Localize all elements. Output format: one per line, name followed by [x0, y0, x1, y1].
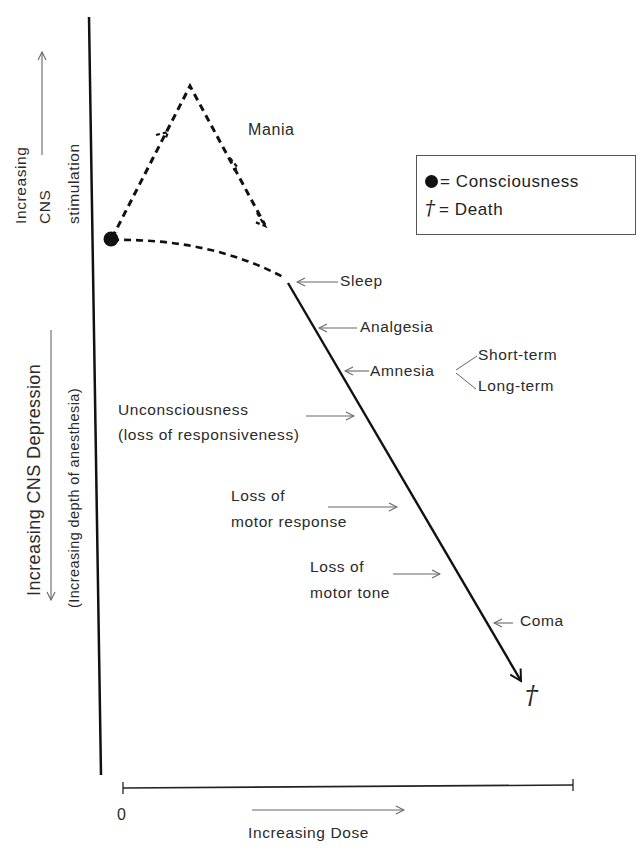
legend-death: †= Death: [425, 196, 503, 220]
y-axis-upper-label-line3: stimulation: [65, 143, 83, 224]
stage-sleep-label: Sleep: [340, 272, 383, 290]
y-axis-lower-label-sub: (Increasing depth of anesthesia): [66, 388, 82, 608]
stage-coma-label: Coma: [520, 612, 564, 630]
legend-consciousness-label: = Consciousness: [440, 172, 579, 191]
legend-death-label: = Death: [439, 200, 503, 219]
diagram-canvas: [0, 0, 644, 854]
stage-motor-tone-label-line2: motor tone: [310, 584, 390, 602]
amnesia-branch-long: [456, 373, 476, 389]
legend: = Consciousness †= Death: [416, 155, 636, 235]
x-axis-line: [123, 785, 573, 788]
amnesia-branch-short: [456, 356, 477, 370]
x-axis-label: Increasing Dose: [248, 824, 369, 842]
y-axis-upper-label-line1: Increasing: [12, 146, 30, 224]
stage-unconsciousness-label: Unconsciousness: [118, 401, 248, 419]
stage-unconsciousness-sublabel: (loss of responsiveness): [118, 426, 300, 444]
amnesia-long-term-label: Long-term: [478, 377, 554, 395]
consciousness-dot-icon: [425, 175, 438, 188]
sleep-onset-path: [112, 240, 285, 278]
x-axis-origin-label: 0: [117, 806, 127, 824]
stage-amnesia-label: Amnesia: [370, 362, 435, 380]
dagger-icon: †: [425, 196, 439, 220]
legend-consciousness: = Consciousness: [425, 172, 579, 192]
stage-analgesia-label: Analgesia: [360, 318, 433, 336]
mania-label: Mania: [248, 121, 295, 139]
consciousness-point: [104, 232, 119, 247]
stage-motor-tone-label-line1: Loss of: [310, 558, 364, 576]
amnesia-short-term-label: Short-term: [478, 346, 557, 364]
mania-dash-mark-2: [230, 158, 238, 170]
stage-motor-response-label-line2: motor response: [231, 513, 347, 531]
depression-path: [288, 283, 521, 681]
death-endpoint-icon: †: [525, 680, 539, 710]
mania-path: [112, 86, 265, 238]
stage-motor-response-label-line1: Loss of: [231, 487, 285, 505]
y-axis-lower-label-main: Increasing CNS Depression: [24, 364, 45, 596]
y-axis-upper-label-line2: CNS: [36, 189, 54, 224]
y-axis-line: [89, 17, 101, 775]
